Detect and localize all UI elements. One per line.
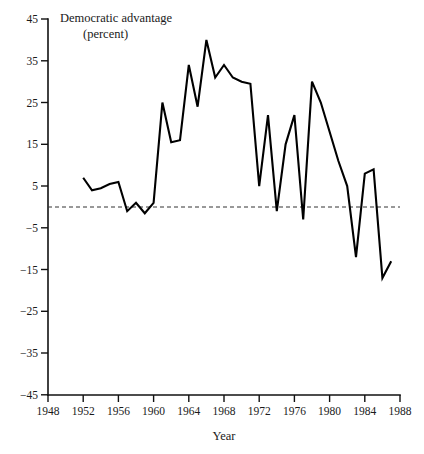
y-tick-label: 25: [27, 97, 39, 109]
chart-figure: Democratic advantage (percent) 45 35 25 …: [0, 0, 424, 454]
x-tick-label: 1968: [213, 405, 236, 417]
x-tick-label: 1952: [72, 405, 95, 417]
chart-subtitle: (percent): [83, 27, 128, 41]
line-chart-svg: Democratic advantage (percent) 45 35 25 …: [0, 0, 424, 454]
y-tick-label: −5: [26, 222, 38, 234]
x-tick-label: 1960: [142, 405, 165, 417]
y-tick-marks: [41, 19, 48, 395]
y-tick-label: 45: [27, 13, 39, 25]
x-tick-label: 1972: [248, 405, 271, 417]
x-tick-label: 1964: [177, 405, 200, 417]
democratic-advantage-line: [83, 40, 391, 278]
x-tick-label: 1984: [353, 405, 376, 417]
y-tick-label: −45: [20, 389, 38, 401]
y-tick-label: −15: [20, 264, 38, 276]
y-tick-label: −35: [20, 347, 38, 359]
x-tick-label: 1976: [283, 405, 306, 417]
x-axis-title: Year: [212, 429, 236, 443]
y-tick-label: 5: [32, 180, 38, 192]
y-tick-label: 35: [27, 55, 39, 67]
x-tick-marks: [48, 395, 400, 402]
chart-title: Democratic advantage: [60, 11, 173, 25]
x-tick-labels: 1948 1952 1956 1960 1964 1968 1972 1976 …: [37, 405, 412, 417]
x-tick-label: 1988: [389, 405, 412, 417]
x-tick-label: 1956: [107, 405, 130, 417]
y-tick-label: −25: [20, 305, 38, 317]
x-tick-label: 1948: [37, 405, 60, 417]
y-tick-labels: 45 35 25 15 5 −5 −15 −25 −35 −45: [20, 13, 38, 401]
y-tick-label: 15: [27, 138, 39, 150]
x-tick-label: 1980: [318, 405, 341, 417]
